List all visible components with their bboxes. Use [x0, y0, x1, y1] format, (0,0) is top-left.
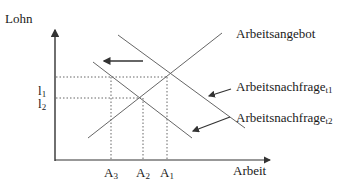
demand-t2-subscript: t2	[326, 116, 333, 126]
x-axis-label: Arbeit	[233, 164, 266, 177]
x-tick-a3: A3	[104, 166, 118, 181]
y-axis-label: Lohn	[5, 12, 32, 25]
y-tick-l2: l2	[38, 97, 46, 112]
demand-curve-t2	[93, 62, 192, 138]
x-tick-a2: A2	[136, 166, 150, 181]
x-tick-a3-text: A	[104, 165, 113, 180]
y-tick-l2-sub: 2	[42, 102, 47, 112]
x-tick-a2-text: A	[136, 165, 145, 180]
supply-curve	[88, 33, 222, 138]
x-tick-a3-sub: 3	[113, 171, 118, 181]
x-tick-a1: A1	[160, 166, 174, 181]
pointer-arrow-t2	[193, 117, 230, 131]
x-tick-a1-sub: 1	[169, 171, 174, 181]
demand-curve-t1	[118, 35, 245, 128]
supply-label: Arbeitsangebot	[236, 27, 315, 40]
demand-t2-label: Arbeitsnachfraget2	[236, 111, 333, 126]
demand-t1-text: Arbeitsnachfrage	[236, 79, 326, 94]
x-tick-a1-text: A	[160, 165, 169, 180]
pointer-arrow-t1	[209, 89, 231, 96]
x-tick-a2-sub: 2	[145, 171, 150, 181]
demand-t1-label: Arbeitsnachfraget1	[236, 80, 333, 95]
demand-t2-text: Arbeitsnachfrage	[236, 110, 326, 125]
demand-t1-subscript: t1	[326, 85, 333, 95]
